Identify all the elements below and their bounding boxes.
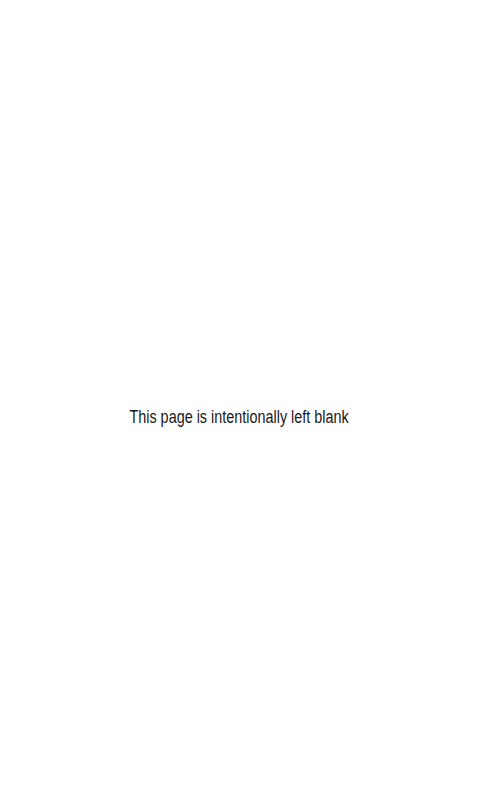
intentionally-blank-notice: This page is intentionally left blank (0, 406, 478, 428)
notice-text: This page is intentionally left blank (129, 406, 348, 428)
blank-page: This page is intentionally left blank (0, 0, 478, 809)
